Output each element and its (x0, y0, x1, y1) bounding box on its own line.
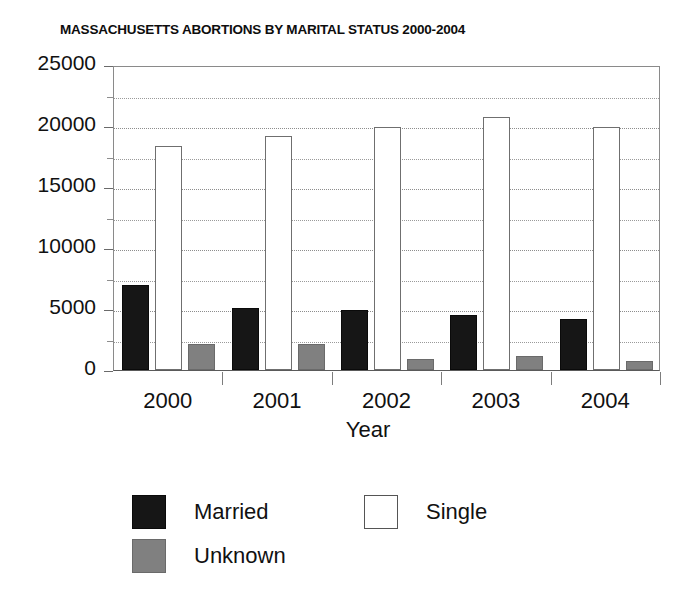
y-tick-label: 10000 (0, 234, 96, 258)
bar-unknown-2001 (298, 344, 325, 370)
legend-label-married: Married (194, 499, 269, 525)
bar-married-2002 (341, 310, 368, 370)
bar-unknown-2002 (407, 359, 434, 370)
x-axis-title-label: Year (346, 417, 390, 443)
legend-item-single[interactable]: Single (364, 495, 487, 529)
bar-married-2004 (560, 319, 587, 370)
bar-unknown-2000 (188, 344, 215, 370)
y-axis: 0500010000150002000025000 (0, 0, 104, 610)
x-tick-label-2001: 2001 (253, 388, 302, 414)
bar-chart-figure: MASSACHUSETTS ABORTIONS BY MARITAL STATU… (0, 0, 682, 610)
chart-legend: Married Single Unknown (132, 495, 572, 581)
x-tick (551, 372, 552, 385)
x-tick (441, 372, 442, 385)
bar-unknown-2004 (626, 361, 653, 370)
bar-single-2004 (593, 127, 620, 370)
x-tick-label-2000: 2000 (143, 388, 192, 414)
x-axis-title: Year (0, 417, 682, 443)
bar-single-2001 (265, 136, 292, 370)
y-major-tick (104, 66, 113, 67)
bar-married-2000 (122, 285, 149, 370)
chart-title: MASSACHUSETTS ABORTIONS BY MARITAL STATU… (60, 22, 465, 37)
y-major-tick (104, 249, 113, 250)
bar-single-2002 (374, 127, 401, 370)
bar-married-2001 (232, 308, 259, 370)
legend-label-unknown: Unknown (194, 543, 286, 569)
x-tick-label-2003: 2003 (471, 388, 520, 414)
y-tick-label: 0 (0, 356, 96, 380)
x-tick (332, 372, 333, 385)
x-tick-label-2002: 2002 (362, 388, 411, 414)
x-tick-label-2004: 2004 (581, 388, 630, 414)
legend-swatch-unknown-icon (132, 539, 166, 573)
legend-item-married[interactable]: Married (132, 495, 269, 529)
bar-married-2003 (450, 315, 477, 370)
y-major-tick (104, 310, 113, 311)
gridline (114, 98, 659, 99)
legend-label-single: Single (426, 499, 487, 525)
legend-swatch-married-icon (132, 495, 166, 529)
x-tick (660, 372, 661, 385)
bar-unknown-2003 (516, 356, 543, 370)
y-tick-label: 20000 (0, 112, 96, 136)
y-major-tick (104, 127, 113, 128)
bar-single-2000 (155, 146, 182, 370)
y-tick-label: 25000 (0, 51, 96, 75)
y-major-tick (104, 188, 113, 189)
bar-single-2003 (483, 117, 510, 370)
y-major-tick (104, 371, 113, 372)
legend-swatch-single-icon (364, 495, 398, 529)
x-tick (222, 372, 223, 385)
plot-area (113, 66, 660, 371)
legend-item-unknown[interactable]: Unknown (132, 539, 286, 573)
y-tick-label: 5000 (0, 295, 96, 319)
y-tick-label: 15000 (0, 173, 96, 197)
